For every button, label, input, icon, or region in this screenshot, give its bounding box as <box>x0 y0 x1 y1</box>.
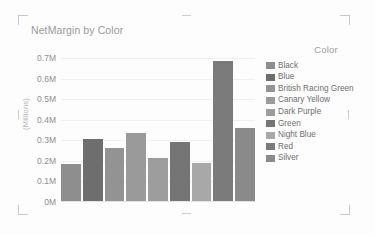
resize-handle-left[interactable] <box>18 110 19 119</box>
y-axis-tick-label: 0.5M <box>37 94 56 104</box>
legend-item[interactable]: Silver <box>266 153 372 165</box>
legend-item-label: Black <box>278 62 298 70</box>
bar-series <box>61 58 255 201</box>
legend-item[interactable]: Blue <box>266 72 372 84</box>
plot-area <box>61 58 255 202</box>
legend-swatch-icon <box>266 132 275 139</box>
legend-item-label: Canary Yellow <box>278 96 330 104</box>
legend-swatch-icon <box>266 120 275 127</box>
y-axis-tick-label: 0.3M <box>37 135 56 145</box>
y-axis-tick-label: 0.6M <box>37 74 56 84</box>
resize-handle-bottom[interactable] <box>182 213 191 214</box>
bar[interactable] <box>126 133 146 201</box>
bar[interactable] <box>105 148 125 201</box>
crop-mark-bottom-left <box>18 205 28 215</box>
resize-handle-top[interactable] <box>182 15 191 16</box>
legend-item[interactable]: Red <box>266 141 372 153</box>
legend-swatch-icon <box>266 97 275 104</box>
axis-baseline <box>61 201 255 202</box>
legend-swatch-icon <box>266 62 275 69</box>
y-axis-tick-labels: 0.7M0.6M0.5M0.4M0.3M0.2M0.1M0M <box>22 58 56 202</box>
legend-item[interactable]: Night Blue <box>266 130 372 142</box>
bar[interactable] <box>235 128 255 201</box>
legend-item-label: Dark Purple <box>278 108 321 116</box>
legend-swatch-icon <box>266 109 275 116</box>
legend-item[interactable]: Black <box>266 60 372 72</box>
legend-item-label: Blue <box>278 73 294 81</box>
legend-item-label: Silver <box>278 154 298 162</box>
legend-title: Color <box>280 44 372 55</box>
legend-swatch-icon <box>266 85 275 92</box>
legend-item-label: Red <box>278 143 293 151</box>
y-axis-tick-label: 0.7M <box>37 53 56 63</box>
legend-item-label: Night Blue <box>278 131 316 139</box>
chart-visual: NetMargin by Color (Millions) 0.7M0.6M0.… <box>0 0 375 235</box>
crop-mark-top-left <box>18 15 28 25</box>
crop-mark-top-right <box>340 15 350 25</box>
legend: Color BlackBlueBritish Racing GreenCanar… <box>266 44 372 164</box>
y-axis-tick-label: 0.1M <box>37 176 56 186</box>
legend-item[interactable]: Green <box>266 118 372 130</box>
y-axis-tick-label: 0.2M <box>37 156 56 166</box>
legend-swatch-icon <box>266 155 275 162</box>
legend-swatch-icon <box>266 143 275 150</box>
crop-mark-bottom-right <box>340 205 350 215</box>
bar[interactable] <box>192 163 212 201</box>
bar[interactable] <box>170 142 190 201</box>
y-axis-tick-label: 0M <box>44 197 56 207</box>
chart-title: NetMargin by Color <box>31 24 123 36</box>
legend-item-label: British Racing Green <box>278 85 354 93</box>
legend-item[interactable]: British Racing Green <box>266 83 372 95</box>
y-axis-tick-label: 0.4M <box>37 115 56 125</box>
legend-item[interactable]: Canary Yellow <box>266 95 372 107</box>
legend-item-list: BlackBlueBritish Racing GreenCanary Yell… <box>266 60 372 164</box>
bar[interactable] <box>213 61 233 201</box>
legend-item-label: Green <box>278 120 301 128</box>
bar[interactable] <box>148 158 168 201</box>
bar[interactable] <box>61 164 81 201</box>
legend-item[interactable]: Dark Purple <box>266 106 372 118</box>
legend-swatch-icon <box>266 74 275 81</box>
bar[interactable] <box>83 139 103 201</box>
